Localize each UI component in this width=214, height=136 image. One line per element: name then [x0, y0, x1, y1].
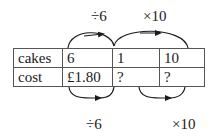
bottom-arrow-divide	[69, 87, 114, 98]
top-arrow-multiply	[114, 31, 188, 48]
bottom-label-divide: ÷6	[86, 117, 102, 132]
bottom-label-multiply: ×10	[172, 117, 195, 132]
bottom-arrow-multiply	[139, 87, 185, 98]
table-cell: ?	[113, 68, 160, 87]
table-row-cakes: cakes 6 1 10	[14, 49, 205, 68]
table-cell: 10	[160, 49, 205, 68]
table-cell: £1.80	[63, 68, 113, 87]
ratio-table: cakes 6 1 10 cost £1.80 ? ?	[13, 48, 205, 87]
table-cell: ?	[160, 68, 205, 87]
table-row-cost: cost £1.80 ? ?	[14, 68, 205, 87]
table-cell: 6	[63, 49, 113, 68]
row-header: cost	[14, 68, 63, 87]
row-header: cakes	[14, 49, 63, 68]
top-label-multiply: ×10	[143, 9, 166, 24]
top-arrow-divide	[68, 33, 114, 48]
table-cell: 1	[113, 49, 160, 68]
top-label-divide: ÷6	[91, 9, 107, 24]
